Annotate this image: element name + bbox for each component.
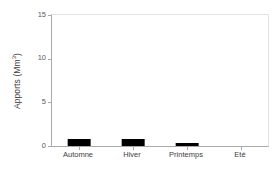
bar-Printemps xyxy=(176,143,199,146)
y-tick-mark xyxy=(48,146,52,147)
y-tick-mark xyxy=(48,102,52,103)
y-axis-title-close-paren: ) xyxy=(12,53,22,56)
chart-figure: Apports (Mm3) 051015 AutomneHiverPrintem… xyxy=(0,0,280,176)
x-axis-label-Hiver: Hiver xyxy=(123,150,141,159)
y-tick-label: 0 xyxy=(42,141,46,150)
x-axis-label-Printemps: Printemps xyxy=(169,150,203,159)
bar-Automne xyxy=(68,139,91,146)
y-tick-label: 10 xyxy=(38,53,46,62)
x-axis-label-Automne: Automne xyxy=(63,150,93,159)
y-tick-mark xyxy=(48,59,52,60)
y-tick-label: 5 xyxy=(42,97,46,106)
y-axis-title-main: Apports (Mm xyxy=(12,59,22,109)
y-tick-label: 15 xyxy=(38,10,46,19)
y-axis-title-text: Apports (Mm3) xyxy=(12,53,22,109)
plot-area: 051015 xyxy=(51,14,269,147)
x-axis-label-Eté: Eté xyxy=(234,150,245,159)
y-axis-title: Apports (Mm3) xyxy=(8,14,26,148)
y-tick-mark xyxy=(48,15,52,16)
bar-Hiver xyxy=(122,139,145,146)
y-axis-title-superscript: 3 xyxy=(11,56,17,59)
